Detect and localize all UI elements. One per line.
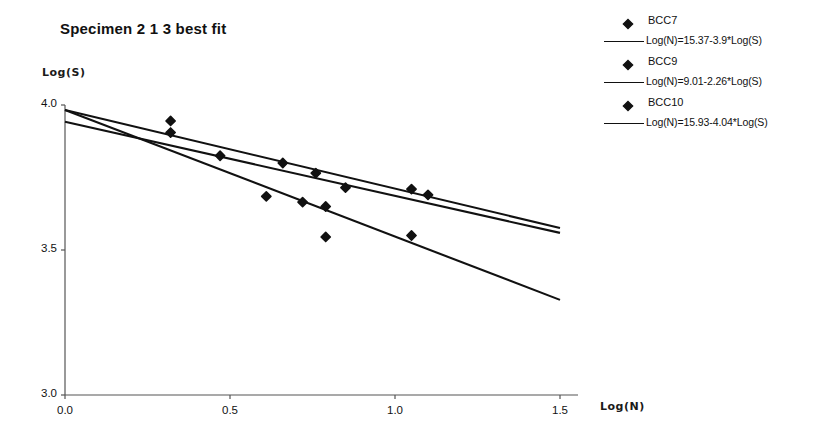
legend-diamond-icon: [622, 57, 634, 69]
legend-item: BCC10: [596, 94, 811, 114]
legend-line-swatch: [604, 41, 644, 42]
legend-line-swatch: [604, 123, 644, 124]
legend-series-label: BCC7: [648, 14, 677, 26]
data-point-bcc10: [407, 231, 416, 240]
legend-series-label: BCC9: [648, 55, 677, 67]
fit-line-bcc7: [65, 110, 560, 228]
data-point-bcc10: [321, 232, 330, 241]
y-tick-label: 3.5: [23, 242, 57, 254]
legend-equation-label: Log(N)=9.01-2.26*Log(S): [646, 75, 762, 87]
legend-item: Log(N)=15.93-4.04*Log(S): [596, 114, 811, 134]
data-point-bcc7: [216, 151, 225, 160]
chart-page: Specimen 2 1 3 best fit Log(S) Log(N) 3.…: [0, 0, 817, 447]
legend-item: Log(N)=9.01-2.26*Log(S): [596, 73, 811, 93]
chart-legend: BCC7Log(N)=15.37-3.9*Log(S)BCC9Log(N)=9.…: [596, 12, 811, 134]
data-point-bcc7: [166, 116, 175, 125]
legend-item: Log(N)=15.37-3.9*Log(S): [596, 32, 811, 52]
legend-diamond-icon: [622, 16, 634, 28]
y-tick-label: 4.0: [23, 97, 57, 109]
legend-line-swatch: [604, 82, 644, 83]
legend-item: BCC9: [596, 53, 811, 73]
x-tick-label: 0.5: [210, 404, 250, 416]
data-point-bcc9: [278, 158, 287, 167]
x-tick-label: 1.0: [375, 404, 415, 416]
x-tick-label: 0.0: [45, 404, 85, 416]
legend-equation-label: Log(N)=15.37-3.9*Log(S): [646, 34, 762, 46]
data-point-bcc10: [262, 192, 271, 201]
y-tick-label: 3.0: [23, 387, 57, 399]
x-tick-label: 1.5: [540, 404, 580, 416]
legend-item: BCC7: [596, 12, 811, 32]
legend-series-label: BCC10: [648, 96, 683, 108]
fit-line-bcc10: [65, 110, 560, 300]
legend-equation-label: Log(N)=15.93-4.04*Log(S): [646, 116, 768, 128]
legend-diamond-icon: [622, 98, 634, 110]
